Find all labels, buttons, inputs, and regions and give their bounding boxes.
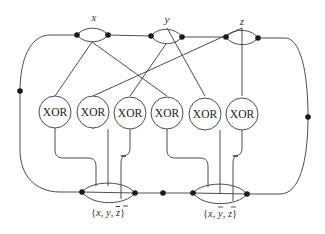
wire-x-xor1 — [55, 42, 92, 96]
svg-text:XOR: XOR — [43, 106, 68, 118]
variable-gadget-x — [77, 28, 108, 42]
node-x-left — [74, 32, 80, 38]
wire-x-xor4 — [92, 42, 167, 96]
node-y-left — [148, 33, 154, 39]
reduction-diagram: XOR XOR XOR XOR XOR XOR — [0, 0, 325, 234]
wire-x-y — [108, 35, 151, 36]
node-x-right — [105, 32, 111, 38]
wire-y-xor5 — [167, 28, 205, 96]
xor-gate-1: XOR — [39, 96, 71, 128]
node-outer-right — [305, 114, 311, 120]
node-clause2-left — [190, 190, 196, 196]
node-outer-left — [17, 88, 23, 94]
node-clause1-right — [132, 190, 138, 196]
clause-gadget-1 — [82, 183, 135, 203]
variable-gadget-y — [151, 29, 182, 43]
svg-text:XOR: XOR — [155, 107, 180, 119]
wire-xor6-clause2 — [233, 130, 242, 201]
xor-gate-6: XOR — [226, 98, 258, 130]
wire-xor1-clause1 — [55, 128, 96, 186]
clause-label-2: {x, y, z} — [203, 208, 237, 219]
xor-gate-5: XOR — [189, 98, 221, 130]
node-clause1-left — [79, 189, 85, 195]
diagram-canvas: XOR XOR XOR XOR XOR XOR — [0, 0, 325, 234]
node-middle — [160, 190, 166, 196]
wire-xor3-clause1 — [121, 129, 130, 199]
xor-gate-2: XOR — [77, 96, 109, 128]
xor-gate-3: XOR — [114, 97, 146, 129]
label-x: x — [91, 11, 97, 23]
wire-xor4-clause2 — [167, 129, 208, 187]
svg-text:XOR: XOR — [230, 108, 255, 120]
svg-text:XOR: XOR — [118, 107, 143, 119]
clause-label-1: {x, y, z} — [91, 207, 125, 218]
node-clause2-right — [244, 191, 250, 197]
label-z: z — [239, 15, 245, 27]
node-z-left — [223, 34, 229, 40]
svg-text:XOR: XOR — [193, 108, 218, 120]
svg-text:XOR: XOR — [81, 106, 106, 118]
node-y-right — [179, 34, 185, 40]
wire-y-xor3 — [130, 44, 166, 96]
xor-gate-4: XOR — [151, 97, 183, 129]
label-y: y — [164, 13, 170, 25]
wire-z-xor2 — [93, 28, 242, 96]
node-z-right — [255, 35, 261, 41]
